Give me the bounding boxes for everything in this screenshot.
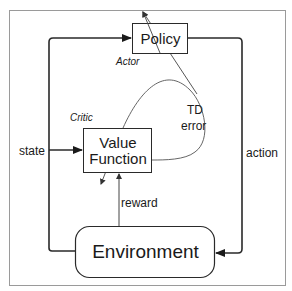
action-label: action — [246, 147, 278, 159]
action-line — [188, 38, 242, 253]
td-error-label-line2: error — [181, 120, 206, 132]
actor-label: Actor — [116, 57, 139, 67]
reward-label: reward — [121, 197, 158, 209]
value-function-label: Value Function — [84, 129, 152, 173]
critic-label: Critic — [70, 113, 93, 123]
policy-label: Policy — [133, 24, 188, 54]
value-function-text-line1: Value — [99, 135, 136, 152]
environment-text: Environment — [92, 242, 199, 263]
policy-text: Policy — [140, 31, 180, 48]
environment-label: Environment — [76, 227, 215, 278]
value-function-text-line2: Function — [89, 151, 147, 168]
state-label: state — [19, 145, 45, 157]
td-error-label-line1: TD — [187, 104, 203, 116]
